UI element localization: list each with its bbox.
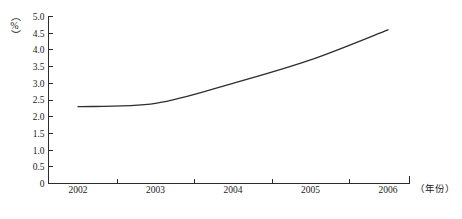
y-axis-caption: （%） [6, 8, 22, 42]
y-axis-tick-label: 2.5 [33, 95, 45, 105]
x-axis-tick-label: 2006 [379, 185, 398, 195]
y-axis-tick-group: 00.51.01.52.02.53.03.54.04.55.0 [33, 12, 53, 189]
x-axis-tick-label: 2004 [224, 185, 243, 195]
y-axis-tick-label: 4.0 [33, 45, 45, 55]
y-axis-tick-label: 3.0 [33, 79, 45, 89]
y-axis-tick-label: 1.0 [33, 146, 45, 156]
y-axis-tick-label: 2.0 [33, 112, 45, 122]
x-axis-caption-text: （年份） [415, 183, 455, 194]
y-axis-tick-label: 1.5 [33, 129, 45, 139]
y-axis-tick-label: 0.5 [33, 162, 45, 172]
x-axis-tick-label: 2003 [146, 185, 165, 195]
y-axis-tick-label: 5.0 [33, 12, 45, 22]
y-axis-tick-label: 0 [40, 179, 45, 189]
x-axis-tick-label: 2002 [69, 185, 88, 195]
y-axis-caption-text: （%） [9, 11, 19, 39]
data-series-line [78, 30, 388, 107]
chart-canvas: 00.51.01.52.02.53.03.54.04.55.0 20022003… [0, 0, 462, 219]
x-axis-tick-group: 20022003200420052006 [69, 179, 398, 195]
y-axis-tick-label: 3.5 [33, 62, 45, 72]
y-axis-tick-label: 4.5 [33, 29, 45, 39]
line-chart: （%） 00.51.01.52.02.53.03.54.04.55.0 2002… [0, 0, 462, 219]
x-axis-tick-label: 2005 [301, 185, 320, 195]
